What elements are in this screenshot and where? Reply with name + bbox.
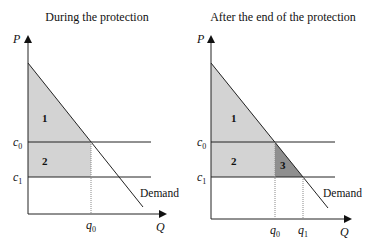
- area-1-label: 1: [42, 112, 48, 124]
- area-2: [28, 142, 91, 177]
- panel-after-protection: After the end of the protection P Q c0 c…: [196, 10, 362, 239]
- c0-label: c0: [197, 135, 206, 151]
- y-axis-label: P: [196, 32, 205, 46]
- area-2-label: 2: [231, 155, 237, 167]
- diagram-canvas: During the protection P Q c0 c1 q0 1 2 D…: [0, 0, 376, 247]
- y-axis-label: P: [12, 32, 21, 46]
- x-axis-label: Q: [340, 225, 349, 239]
- c0-label: c0: [13, 135, 22, 151]
- area-2: [211, 142, 275, 177]
- area-3-label: 3: [280, 159, 286, 171]
- area-2-label: 2: [42, 155, 48, 167]
- c1-label: c1: [197, 170, 206, 186]
- c1-label: c1: [13, 170, 22, 186]
- q0-label: q0: [270, 223, 280, 239]
- q0-label: q0: [86, 218, 96, 234]
- panel-during-protection: During the protection P Q c0 c1 q0 1 2 D…: [12, 10, 179, 234]
- area-1-label: 1: [231, 112, 237, 124]
- panel-title: During the protection: [45, 10, 148, 24]
- demand-label: Demand: [140, 187, 179, 199]
- q1-label: q1: [298, 223, 308, 239]
- x-axis-label: Q: [156, 220, 165, 234]
- panel-title: After the end of the protection: [210, 10, 356, 24]
- demand-label: Demand: [323, 187, 362, 199]
